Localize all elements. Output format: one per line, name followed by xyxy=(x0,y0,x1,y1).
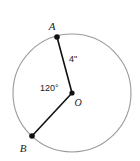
geometry-figure: A B O 4" 120° xyxy=(0,0,140,161)
radius-ob-line xyxy=(32,93,72,136)
central-angle-label: 120° xyxy=(40,83,59,93)
center-point-o-dot xyxy=(69,90,74,95)
point-a-label: A xyxy=(48,20,56,32)
center-point-o-label: O xyxy=(74,97,81,108)
point-b-label: B xyxy=(20,142,27,154)
circle-diagram-canvas: A B O 4" 120° xyxy=(0,0,140,161)
point-b-dot xyxy=(29,133,35,139)
radius-length-label: 4" xyxy=(69,54,77,64)
radius-oa-line xyxy=(57,37,72,93)
point-a-dot xyxy=(54,34,60,40)
